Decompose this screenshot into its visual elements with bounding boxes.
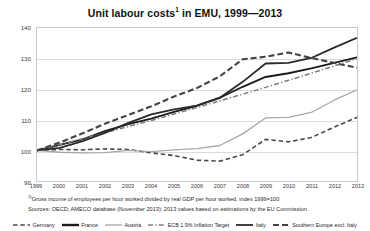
series-line [37, 52, 357, 150]
legend-swatch [148, 222, 165, 228]
legend-item[interactable]: Austria [105, 222, 141, 228]
x-axis-tick: 1999 [30, 183, 42, 189]
chart-figure: Unit labour costs1 in EMU, 1999—2013 901… [0, 0, 370, 231]
notes-block: 1)Gross income of employees per hour wor… [28, 194, 368, 214]
series-line [37, 59, 357, 151]
footnote-text: Gross income of employees per hour worke… [32, 196, 280, 202]
legend-item[interactable]: Germany [13, 222, 55, 228]
x-axis-tick: 2000 [53, 183, 65, 189]
legend-item[interactable]: ECB 1.9% Inflation Target [148, 222, 229, 228]
series-line [37, 90, 357, 153]
x-axis-tick: 2010 [283, 183, 295, 189]
x-axis-tick: 2009 [260, 183, 272, 189]
legend-swatch [273, 222, 290, 228]
legend-label: ECB 1.9% Inflation Target [168, 222, 230, 228]
legend-swatch [62, 222, 79, 228]
x-axis-tick: 2013 [352, 183, 364, 189]
x-axis-tick: 2006 [191, 183, 203, 189]
x-axis-tick: 2008 [237, 183, 249, 189]
legend-label: France [81, 222, 98, 228]
sources-line: Sources: OECD; AMECO database (November … [28, 206, 368, 214]
legend-label: Germany [33, 222, 55, 228]
y-axis-tick: 130 [21, 55, 31, 62]
y-axis-tick: 120 [21, 86, 31, 93]
series-line [37, 38, 357, 151]
series-line [37, 57, 357, 150]
x-axis-tick: 2001 [76, 183, 88, 189]
legend-label: Southern Europe excl. Italy [292, 222, 357, 228]
legend-label: Austria [124, 222, 141, 228]
legend-swatch [105, 222, 122, 228]
legend-item[interactable]: Southern Europe excl. Italy [273, 222, 357, 228]
legend-swatch [13, 222, 30, 228]
y-axis-tick: 110 [21, 117, 31, 124]
x-axis-tick: 2002 [99, 183, 111, 189]
x-axis-tick: 2003 [122, 183, 134, 189]
legend-swatch [236, 222, 253, 228]
page-title: Unit labour costs1 in EMU, 1999—2013 [0, 6, 370, 19]
x-axis: 1999200020012002200320042005200620072008… [36, 183, 358, 193]
chart-title-main: Unit labour costs [88, 7, 175, 19]
x-axis-tick: 2012 [329, 183, 341, 189]
chart-title-rest: in EMU, 1999—2013 [179, 7, 282, 19]
plot-area [36, 27, 358, 182]
x-axis-tick: 2007 [214, 183, 226, 189]
series-lines [37, 28, 357, 181]
legend-item[interactable]: France [62, 222, 98, 228]
y-axis: 90100110120130140 [0, 27, 34, 182]
x-axis-tick: 2004 [145, 183, 157, 189]
x-axis-tick: 2005 [168, 183, 180, 189]
y-axis-tick: 140 [21, 24, 31, 31]
legend-item[interactable]: Italy [236, 222, 265, 228]
y-axis-tick: 100 [21, 148, 31, 155]
legend-label: Italy [256, 222, 266, 228]
chart-legend: GermanyFranceAustriaECB 1.9% Inflation T… [0, 219, 370, 230]
footnote: 1)Gross income of employees per hour wor… [28, 194, 368, 203]
x-axis-tick: 2011 [306, 183, 318, 189]
